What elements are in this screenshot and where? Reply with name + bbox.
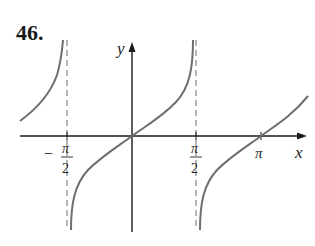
tick-label-neg-pi: π bbox=[62, 141, 70, 156]
x-axis-arrow-icon bbox=[297, 133, 307, 140]
curve-branch-left bbox=[20, 40, 63, 121]
y-axis-arrow-icon bbox=[129, 42, 136, 52]
tick-label-neg-sign: − bbox=[44, 145, 53, 162]
tick-label-two: 2 bbox=[191, 161, 198, 176]
tick-label-neg-two: 2 bbox=[62, 161, 69, 176]
x-axis-label: x bbox=[294, 143, 303, 162]
tick-label-pi: π bbox=[191, 141, 199, 156]
y-axis-label: y bbox=[115, 39, 125, 58]
curve-branch-right bbox=[200, 96, 308, 230]
tan-graph: y x − π 2 π 2 π bbox=[0, 0, 315, 246]
figure: 46. y x − π 2 π 2 π bbox=[0, 0, 315, 246]
tick-label-pi-full: π bbox=[255, 145, 263, 161]
